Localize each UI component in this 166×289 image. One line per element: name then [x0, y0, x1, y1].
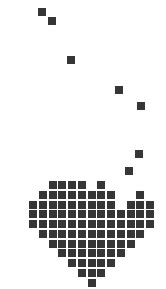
heart-pixel — [68, 181, 76, 189]
heart-pixel — [58, 181, 66, 189]
heart-pixel — [49, 230, 57, 238]
heart-pixel — [117, 240, 125, 248]
heart-pixel — [68, 249, 76, 257]
heart-pixel — [136, 210, 144, 218]
heart-pixel — [146, 210, 154, 218]
heart-pixel — [49, 240, 57, 248]
heart-pixel — [68, 240, 76, 248]
heart-pixel — [127, 220, 135, 228]
heart-pixel — [136, 230, 144, 238]
heart-pixel — [58, 249, 66, 257]
floating-dot — [137, 102, 145, 110]
heart-pixel — [68, 210, 76, 218]
heart-pixel — [127, 210, 135, 218]
heart-pixel — [49, 201, 57, 209]
heart-pixel — [146, 220, 154, 228]
heart-pixel — [107, 191, 115, 199]
heart-pixel — [88, 191, 96, 199]
heart-pixel — [146, 201, 154, 209]
heart-pixel — [97, 269, 105, 277]
heart-pixel — [117, 249, 125, 257]
heart-pixel — [88, 201, 96, 209]
heart-pixel — [88, 210, 96, 218]
floating-dot — [38, 8, 46, 16]
heart-pixel — [49, 210, 57, 218]
heart-pixel — [78, 269, 86, 277]
heart-pixel — [49, 220, 57, 228]
heart-pixel — [97, 210, 105, 218]
heart-pixel — [107, 259, 115, 267]
heart-pixel — [29, 201, 37, 209]
heart-pixel — [127, 230, 135, 238]
heart-pixel — [78, 259, 86, 267]
heart-pixel — [49, 181, 57, 189]
heart-pixel — [107, 210, 115, 218]
heart-pixel — [117, 220, 125, 228]
heart-pixel — [78, 210, 86, 218]
heart-pixel — [78, 249, 86, 257]
floating-dot — [115, 86, 123, 94]
heart-pixel — [136, 191, 144, 199]
heart-pixel — [78, 240, 86, 248]
heart-pixel — [78, 191, 86, 199]
heart-pixel — [127, 240, 135, 248]
heart-pixel — [78, 181, 86, 189]
heart-pixel — [88, 220, 96, 228]
heart-pixel — [136, 220, 144, 228]
heart-pixel — [49, 191, 57, 199]
heart-pixel — [97, 201, 105, 209]
heart-pixel — [58, 240, 66, 248]
heart-pixel — [107, 249, 115, 257]
heart-pixel — [68, 259, 76, 267]
floating-dot — [125, 167, 133, 175]
pixel-heart-artwork — [0, 0, 166, 289]
heart-pixel — [58, 220, 66, 228]
floating-dot — [135, 150, 143, 158]
heart-pixel — [39, 210, 47, 218]
heart-pixel — [58, 230, 66, 238]
heart-pixel — [68, 220, 76, 228]
heart-pixel — [88, 240, 96, 248]
heart-pixel — [97, 181, 105, 189]
heart-pixel — [136, 201, 144, 209]
heart-pixel — [97, 249, 105, 257]
heart-pixel — [107, 201, 115, 209]
heart-pixel — [117, 210, 125, 218]
heart-pixel — [97, 259, 105, 267]
heart-pixel — [107, 240, 115, 248]
heart-pixel — [88, 230, 96, 238]
heart-pixel — [97, 230, 105, 238]
heart-pixel — [68, 191, 76, 199]
heart-pixel — [127, 201, 135, 209]
heart-pixel — [78, 220, 86, 228]
heart-pixel — [58, 201, 66, 209]
heart-pixel — [39, 220, 47, 228]
heart-pixel — [29, 210, 37, 218]
heart-pixel — [68, 230, 76, 238]
heart-pixel — [88, 279, 96, 287]
heart-pixel — [88, 249, 96, 257]
heart-pixel — [39, 201, 47, 209]
heart-pixel — [97, 220, 105, 228]
heart-pixel — [78, 201, 86, 209]
heart-pixel — [117, 230, 125, 238]
heart-pixel — [58, 191, 66, 199]
heart-pixel — [97, 240, 105, 248]
floating-dot — [48, 17, 56, 25]
heart-pixel — [68, 201, 76, 209]
heart-pixel — [107, 230, 115, 238]
heart-pixel — [39, 230, 47, 238]
heart-pixel — [88, 259, 96, 267]
heart-pixel — [107, 220, 115, 228]
floating-dot — [67, 56, 75, 64]
heart-pixel — [88, 269, 96, 277]
heart-pixel — [39, 191, 47, 199]
heart-pixel — [78, 230, 86, 238]
heart-pixel — [29, 220, 37, 228]
heart-pixel — [97, 191, 105, 199]
heart-pixel — [58, 210, 66, 218]
